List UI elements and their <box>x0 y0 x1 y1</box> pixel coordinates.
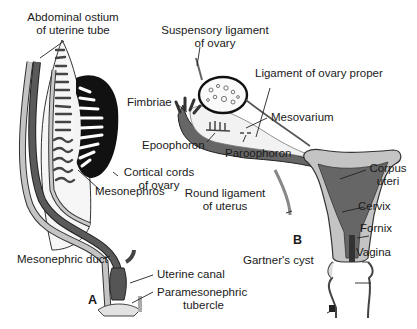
label-line-1: Paramesonephric <box>157 286 247 299</box>
label-line-1: Suspensory ligament <box>160 24 270 37</box>
label-line-1: Abdominal ostium <box>18 11 128 24</box>
label-paroophoron: Paroophoron <box>225 147 292 160</box>
label-fimbriae: Fimbriae <box>127 96 172 109</box>
label-vagina: Vagina <box>356 246 391 259</box>
label-line-2: of uterine tube <box>18 24 128 37</box>
label-line-2: of uterus <box>180 200 270 213</box>
label-mesonephros: Mesonephros <box>95 185 165 198</box>
label-mesonephric-duct: Mesonephric duct <box>17 253 108 266</box>
label-line-2: uteri <box>363 175 413 188</box>
label-paramesonephric-tubercle: Paramesonephric tubercle <box>157 286 247 312</box>
anatomy-figure: Abdominal ostium of uterine tube Cortica… <box>0 0 417 329</box>
panel-label-a: A <box>88 294 97 307</box>
label-fornix: Fornix <box>360 222 392 235</box>
label-cervix: Cervix <box>358 200 391 213</box>
label-suspensory-ligament: Suspensory ligament of ovary <box>160 24 270 50</box>
label-epoophoron: Epoophoron <box>142 139 205 152</box>
label-line-2: of ovary <box>160 37 270 50</box>
label-round-ligament: Round ligament of uterus <box>180 187 270 213</box>
label-ligament-of-ovary-proper: Ligament of ovary proper <box>255 67 383 80</box>
label-line-1: Cortical cords <box>114 166 204 179</box>
label-gartners-cyst: Gartner's cyst <box>243 254 314 267</box>
label-uterine-canal: Uterine canal <box>157 268 225 281</box>
label-line-1: Corpus <box>363 162 413 175</box>
label-mesovarium: Mesovarium <box>271 111 334 124</box>
label-line-1: Round ligament <box>180 187 270 200</box>
label-abdominal-ostium: Abdominal ostium of uterine tube <box>18 11 128 37</box>
panel-label-b: B <box>293 234 302 247</box>
label-line-2: tubercle <box>157 299 247 312</box>
label-corpus-uteri: Corpus uteri <box>363 162 413 188</box>
